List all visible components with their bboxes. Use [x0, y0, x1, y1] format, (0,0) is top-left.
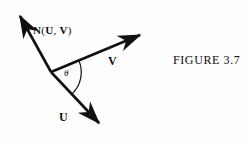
label-normal-vector-close-paren: )	[68, 24, 72, 36]
label-normal-vector: N(U, V)	[33, 24, 72, 36]
figure-3-7-container: N(U, V) V U θ FIGURE 3.7	[0, 0, 249, 144]
label-vector-u: U	[59, 110, 68, 125]
label-normal-vector-n: N	[33, 24, 41, 36]
label-vector-v: V	[108, 54, 117, 69]
figure-caption: FIGURE 3.7	[173, 53, 240, 68]
label-normal-vector-v: V	[60, 24, 68, 36]
vector-diagram	[0, 0, 249, 144]
angle-arc	[72, 60, 81, 94]
label-angle-theta: θ	[64, 68, 68, 78]
vector-v-line	[51, 35, 140, 72]
